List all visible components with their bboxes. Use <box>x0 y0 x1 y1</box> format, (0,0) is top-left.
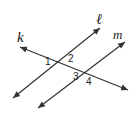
line-k <box>20 47 128 90</box>
label-k: k <box>17 29 24 45</box>
angle-3-label: 3 <box>73 71 79 82</box>
label-m: m <box>113 27 122 42</box>
diagram-canvas: k ℓ m 1 2 3 4 <box>0 0 137 121</box>
angle-4-label: 4 <box>86 76 92 87</box>
line-m <box>38 42 125 108</box>
angle-2-label: 2 <box>68 53 74 64</box>
label-l: ℓ <box>96 11 102 27</box>
line-l <box>13 28 100 98</box>
angle-1-label: 1 <box>45 56 51 67</box>
